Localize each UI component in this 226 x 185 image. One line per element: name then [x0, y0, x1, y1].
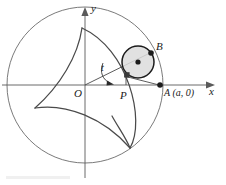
- point-B-marker: [148, 50, 154, 56]
- point-A-label: A (a, 0): [164, 88, 194, 98]
- angle-t-label: t: [101, 63, 104, 73]
- deltoid-arc-bottom: [35, 107, 130, 148]
- y-axis-label: y: [91, 3, 96, 14]
- origin-label: O: [74, 88, 82, 99]
- deltoid-figure: y x O P A (a, 0) B t: [0, 0, 226, 185]
- x-axis-label: x: [209, 86, 214, 97]
- contact-point-marker: [124, 72, 129, 77]
- caption-smudge: [6, 176, 70, 179]
- point-B-label: B: [156, 41, 163, 52]
- point-A-marker: [157, 82, 163, 88]
- y-axis-arrowhead: [81, 7, 88, 16]
- point-P-label: P: [120, 90, 127, 101]
- deltoid-inner-stroke: [112, 116, 130, 148]
- rolling-circle-center-marker: [135, 59, 140, 64]
- deltoid-arc-right: [82, 28, 136, 148]
